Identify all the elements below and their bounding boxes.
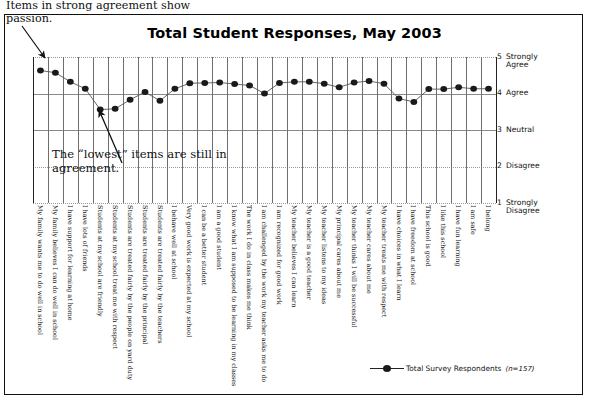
plot-area (33, 57, 496, 203)
x-axis-label: Students are treated fairly by the peopl… (126, 205, 132, 380)
x-axis-label: I am challenged by the work my teacher a… (261, 205, 267, 382)
data-point[interactable] (112, 106, 119, 112)
x-axis-label: I can be a better student (201, 205, 207, 285)
y-axis-tick: 1StronglyDisagree (497, 199, 540, 216)
data-point[interactable] (142, 89, 149, 95)
data-point[interactable] (336, 84, 343, 90)
y-axis: 5StronglyAgree4Agree3Neutral2Disagree1St… (497, 50, 587, 210)
legend-series-label: Total Survey Respondents (406, 364, 501, 373)
x-axis-label: I am safe (470, 205, 476, 235)
data-point[interactable] (306, 79, 313, 85)
series-line-and-markers (33, 57, 496, 203)
y-axis-tick-value: 3 (497, 126, 506, 135)
y-axis-tick-value: 4 (497, 89, 506, 98)
data-point[interactable] (351, 80, 358, 86)
y-axis-tick: 5StronglyAgree (497, 53, 538, 70)
legend-marker-icon (370, 364, 404, 373)
x-axis-label: My teacher cares about me (365, 205, 371, 294)
data-point[interactable] (485, 86, 492, 92)
y-axis-tick-label: Neutral (506, 126, 534, 135)
x-axis-label: My family believes I can do well in scho… (52, 205, 58, 340)
x-axis-label: I have support for learning at home (67, 205, 73, 321)
y-axis-tick-value: 1 (497, 199, 506, 208)
x-axis-label: Students are treated fairly by the teach… (156, 205, 162, 343)
data-point[interactable] (82, 86, 89, 92)
x-axis-label: I have fun learning (455, 205, 461, 267)
annotation-top: Items in strong agreement show passion. (6, 0, 206, 25)
legend-sample-size: (n=157) (505, 365, 534, 373)
x-axis-label: I have choices in what I learn (395, 205, 401, 301)
x-axis-label: Students at my school treat me with resp… (111, 205, 117, 349)
y-axis-tick: 4Agree (497, 89, 528, 98)
x-axis-label: The work I do in class makes me think (246, 205, 252, 330)
x-axis-label: I behave well at school (171, 205, 177, 279)
y-axis-tick: 2Disagree (497, 162, 540, 171)
data-point[interactable] (231, 81, 238, 87)
series-line (40, 71, 488, 110)
data-point[interactable] (366, 78, 373, 84)
annotation-middle: The “lowest” items are still in agreemen… (52, 148, 267, 175)
data-point[interactable] (455, 84, 462, 90)
data-point[interactable] (440, 86, 447, 92)
x-axis-label: I know what I am supposed to be learning… (231, 205, 237, 386)
data-point[interactable] (201, 80, 208, 86)
x-axis-labels: My family wants me to do well in schoolM… (33, 205, 496, 355)
data-point[interactable] (470, 86, 477, 92)
x-axis-label: My principal cares about me (335, 205, 341, 298)
data-point[interactable] (261, 91, 268, 97)
data-point[interactable] (127, 97, 134, 103)
x-axis-label: My teacher treats me with respect (380, 205, 386, 317)
y-axis-tick-value: 5 (497, 53, 506, 62)
y-axis-tick: 3Neutral (497, 126, 534, 135)
x-axis-label: Students at my school are friendly (96, 205, 102, 317)
x-axis-label: I am recognized for good work (276, 205, 282, 305)
data-point[interactable] (321, 81, 328, 87)
data-point[interactable] (216, 80, 223, 86)
x-axis-label: I have freedom at school (410, 205, 416, 285)
y-axis-tick-label: StronglyAgree (506, 53, 538, 70)
x-axis-label: This school is good (425, 205, 431, 267)
x-axis-label: My teacher is a good teacher (306, 205, 312, 300)
data-point[interactable] (276, 80, 283, 86)
x-axis-label: My teacher listens to my ideas (320, 205, 326, 304)
data-point[interactable] (410, 99, 417, 105)
x-axis-label: My family wants me to do well in school (37, 205, 43, 335)
x-axis-label: I like this school (440, 205, 446, 258)
y-axis-tick-label: Disagree (506, 162, 540, 171)
data-point[interactable] (396, 96, 403, 102)
chart-legend: Total Survey Respondents (n=157) (370, 364, 535, 373)
data-point[interactable] (291, 79, 298, 85)
x-axis-label: My teacher thinks I will be successful (350, 205, 356, 327)
data-point[interactable] (97, 107, 104, 113)
x-axis-label: My teacher believes I can learn (291, 205, 297, 307)
x-axis-label: Very good work is expected at my school (186, 205, 192, 337)
page-title: Total Student Responses, May 2003 (0, 25, 589, 41)
y-axis-tick-label: Agree (506, 89, 528, 98)
x-axis-label: I belong (485, 205, 491, 232)
x-axis-label: I have lots of friends (81, 205, 87, 272)
data-point[interactable] (381, 81, 388, 87)
data-point[interactable] (171, 86, 178, 92)
data-point[interactable] (37, 68, 44, 74)
data-point[interactable] (67, 79, 74, 85)
x-axis-label: Students are treated fairly by the princ… (141, 205, 147, 344)
data-point[interactable] (157, 98, 164, 104)
data-point[interactable] (186, 80, 193, 86)
data-point[interactable] (425, 86, 432, 92)
y-axis-tick-value: 2 (497, 162, 506, 171)
data-point[interactable] (52, 70, 59, 76)
data-point[interactable] (246, 82, 253, 88)
x-axis-label: I am a good student (216, 205, 222, 270)
y-axis-tick-label: StronglyDisagree (506, 199, 540, 216)
